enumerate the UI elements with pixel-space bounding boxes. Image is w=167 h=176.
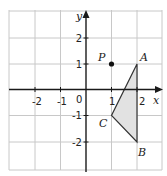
y-tick-label: 2 bbox=[76, 33, 82, 44]
point-p-dot bbox=[109, 61, 114, 66]
y-tick-label: -2 bbox=[72, 137, 82, 148]
origin-label: 0 bbox=[76, 94, 82, 105]
x-tick-label: 2 bbox=[139, 96, 145, 107]
y-tick-label: 1 bbox=[76, 59, 82, 70]
y-tick-label: -1 bbox=[72, 110, 82, 121]
coordinate-grid: -2 -1 0 1 2 2 1 -1 -2 x y P A B C bbox=[0, 0, 167, 176]
vertex-b-label: B bbox=[137, 146, 146, 159]
point-p-label: P bbox=[97, 51, 106, 64]
x-axis-label: x bbox=[153, 94, 160, 107]
x-tick-label: 1 bbox=[109, 96, 115, 107]
x-tick-label: -2 bbox=[32, 96, 42, 107]
vertex-c-label: C bbox=[99, 117, 108, 130]
x-tick-label: -1 bbox=[57, 96, 67, 107]
vertex-a-label: A bbox=[139, 51, 148, 64]
y-axis-label: y bbox=[75, 10, 83, 23]
